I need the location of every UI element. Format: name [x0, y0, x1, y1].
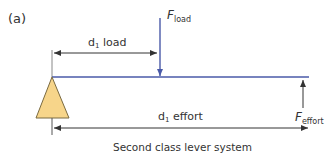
diagram-caption: Second class lever system	[0, 142, 335, 153]
effort-distance-symbol: d	[158, 110, 165, 123]
load-force-symbol: F	[167, 8, 174, 22]
effort-force-label: Feffort	[295, 111, 324, 126]
load-distance-label: d1 load	[88, 37, 126, 50]
fulcrum-triangle	[36, 77, 69, 118]
effort-force-subscript: effort	[302, 117, 324, 126]
load-force-label: Fload	[167, 9, 191, 24]
effort-force-symbol: F	[295, 110, 302, 124]
load-force-subscript: load	[174, 15, 191, 24]
effort-distance-subscript: 1	[165, 116, 169, 124]
effort-distance-text: effort	[173, 110, 203, 123]
load-distance-symbol: d	[88, 36, 95, 49]
load-distance-subscript: 1	[95, 42, 99, 50]
panel-label: (a)	[8, 12, 26, 25]
load-distance-text: load	[103, 36, 127, 49]
effort-distance-label: d1 effort	[158, 111, 203, 124]
